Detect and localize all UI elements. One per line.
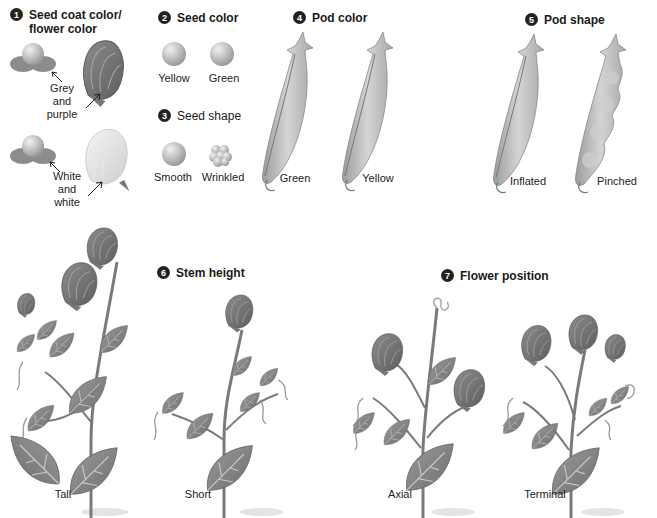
arrow-icon xyxy=(48,160,62,174)
pod-shape-pinched-label: Pinched xyxy=(594,175,640,188)
section-5-header: 5 Pod shape xyxy=(525,13,605,27)
number-badge: 5 xyxy=(525,13,538,26)
number-badge: 1 xyxy=(10,8,23,21)
green-pod xyxy=(255,32,325,192)
flower-position-axial-label: Axial xyxy=(383,488,417,501)
section-1-title-line2: flower color xyxy=(29,22,122,36)
white-white-label: White and white xyxy=(50,170,84,209)
pinched-pod xyxy=(568,34,638,194)
arrow-icon xyxy=(50,70,64,84)
seed-shape-smooth-label: Smooth xyxy=(150,171,196,184)
short-plant-illustration xyxy=(150,290,290,518)
section-2-title: Seed color xyxy=(177,11,238,25)
section-4-header: 4 Pod color xyxy=(293,11,367,25)
grey-purple-label: Grey and purple xyxy=(45,82,79,121)
section-6-header: 6 Stem height xyxy=(157,266,245,280)
section-3-header: 3 Seed shape xyxy=(158,109,241,123)
section-6-title: Stem height xyxy=(176,266,245,280)
flower-position-terminal-label: Terminal xyxy=(520,488,570,501)
number-badge: 2 xyxy=(158,11,171,24)
inflated-pod xyxy=(486,34,556,194)
tall-plant-illustration xyxy=(5,222,135,518)
axial-plant-illustration xyxy=(345,298,495,518)
seed-color-yellow-label: Yellow xyxy=(152,72,196,85)
section-7-header: 7 Flower position xyxy=(441,269,549,283)
seed-color-green-label: Green xyxy=(202,72,246,85)
section-5-title: Pod shape xyxy=(544,13,605,27)
number-badge: 6 xyxy=(157,266,170,279)
section-7-title: Flower position xyxy=(460,269,549,283)
pod-color-green-label: Green xyxy=(275,172,315,185)
wrinkled-seed xyxy=(206,140,234,168)
green-seed xyxy=(208,40,236,68)
pod-color-yellow-label: Yellow xyxy=(356,172,400,185)
yellow-seed xyxy=(160,40,188,68)
section-1-header: 1 Seed coat color/ flower color xyxy=(10,8,122,36)
section-2-header: 2 Seed color xyxy=(158,11,238,25)
number-badge: 3 xyxy=(158,109,171,122)
smooth-seed xyxy=(160,140,188,168)
number-badge: 4 xyxy=(293,11,306,24)
yellow-pod xyxy=(335,32,405,192)
number-badge: 7 xyxy=(441,269,454,282)
section-3-title: Seed shape xyxy=(177,109,241,123)
section-1-title-line1: Seed coat color/ xyxy=(29,8,122,22)
terminal-plant-illustration xyxy=(495,310,645,518)
arrow-icon xyxy=(86,180,104,198)
section-4-title: Pod color xyxy=(312,11,367,25)
stem-height-short-label: Short xyxy=(180,488,216,501)
arrow-icon xyxy=(84,92,102,110)
stem-height-tall-label: Tall xyxy=(48,488,78,501)
seed-shape-wrinkled-label: Wrinkled xyxy=(198,171,248,184)
pod-shape-inflated-label: Inflated xyxy=(506,175,550,188)
